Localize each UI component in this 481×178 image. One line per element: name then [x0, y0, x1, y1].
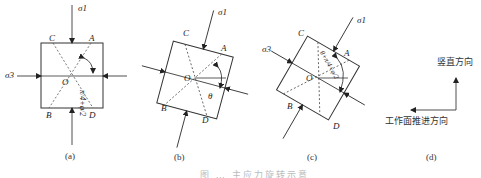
center-o-b: O — [184, 74, 191, 83]
panel-d — [411, 78, 456, 110]
axis-line-b — [165, 72, 225, 88]
angle-label-a: π/4+φ/2 — [78, 90, 86, 116]
panel-c — [236, 0, 400, 166]
panel-label-b: (b) — [174, 152, 185, 162]
panel-label-a: (a) — [65, 151, 75, 161]
sigma1-arrow-top-b — [203, 10, 213, 49]
sigma3-arrow-left-c — [271, 51, 292, 63]
sigma3-label-c: σ3 — [262, 45, 271, 54]
corner-b-a: B — [46, 111, 52, 120]
sigma3-label-a: σ3 — [5, 71, 14, 80]
sigma1-arrow-top-c — [334, 17, 354, 51]
panel-label-d: (d) — [426, 152, 437, 162]
corner-a-b: A — [221, 44, 227, 53]
corner-a-a: A — [89, 34, 95, 43]
corner-b-c: B — [287, 102, 293, 111]
element-square-a — [41, 43, 103, 108]
corner-d-a: D — [89, 111, 96, 120]
corner-a-c: A — [344, 49, 350, 58]
corner-d-c: D — [333, 122, 340, 131]
vertical-direction-label: 竖直方向 — [437, 58, 473, 67]
center-o-a: O — [62, 78, 69, 87]
corner-b-b: B — [161, 104, 167, 113]
figure-caption: 图 … 主应力旋转示意 — [200, 168, 309, 178]
angle-label-b: θ — [208, 92, 212, 101]
corner-d-b: D — [202, 116, 209, 125]
advance-direction-label: 工作面推进方向 — [385, 117, 448, 126]
sigma1-label-b: σ1 — [218, 8, 227, 17]
angle-arc-a — [84, 58, 93, 73]
sigma1-label-a: σ1 — [78, 4, 87, 13]
corner-c-b: C — [183, 29, 189, 38]
sigma3-arrow-right-c — [344, 93, 365, 105]
panel-b — [124, 0, 267, 162]
sigma3-arrow-right-b — [225, 88, 248, 94]
slip-line-cd-a — [53, 43, 93, 108]
panel-label-c: (c) — [307, 152, 317, 162]
sigma3-arrow-left-b — [142, 66, 165, 72]
center-o-c: O — [306, 74, 313, 83]
angle-arc-b — [218, 67, 222, 88]
corner-c-c: C — [298, 29, 304, 38]
sigma1-label-c: σ1 — [357, 16, 366, 25]
sigma1-arrow-bottom-b — [177, 111, 187, 148]
figure-principal-stress-rotation: σ1 σ3 C A B D O π/4+φ/2 (a) σ1 C A B D O… — [0, 0, 481, 178]
corner-c-a: C — [49, 34, 55, 43]
panel-a — [17, 5, 127, 145]
